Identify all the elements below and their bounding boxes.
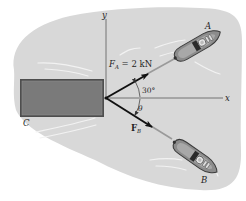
- angle-label-theta: θ: [138, 104, 143, 113]
- fb-subscript: B: [136, 128, 141, 134]
- force-diagram: y x C A B FA = 2 kN FB 30° θ: [0, 0, 246, 201]
- angle-label-30: 30°: [142, 86, 156, 95]
- fa-value: = 2 kN: [119, 59, 153, 69]
- barge-label-c: C: [23, 118, 30, 128]
- y-axis-label: y: [101, 10, 107, 20]
- tugboat-label-a: A: [204, 21, 211, 31]
- origin-point: [104, 96, 107, 99]
- diagram-canvas: y x C A B FA = 2 kN FB 30° θ: [0, 0, 246, 201]
- barge-c: [20, 79, 104, 117]
- x-axis-label: x: [225, 93, 230, 103]
- force-label-fa: FA = 2 kN: [108, 59, 153, 70]
- tugboat-label-b: B: [200, 175, 207, 185]
